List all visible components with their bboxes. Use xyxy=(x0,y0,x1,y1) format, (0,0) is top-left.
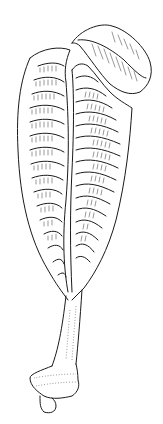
right-ridges xyxy=(76,76,120,262)
bulb-base xyxy=(30,364,79,413)
sea-pen-illustration xyxy=(0,0,163,424)
illustration-canvas xyxy=(0,0,163,424)
left-leaf xyxy=(18,48,71,300)
right-leaf xyxy=(71,64,133,300)
curled-tip xyxy=(72,25,151,94)
stalk xyxy=(52,290,82,366)
